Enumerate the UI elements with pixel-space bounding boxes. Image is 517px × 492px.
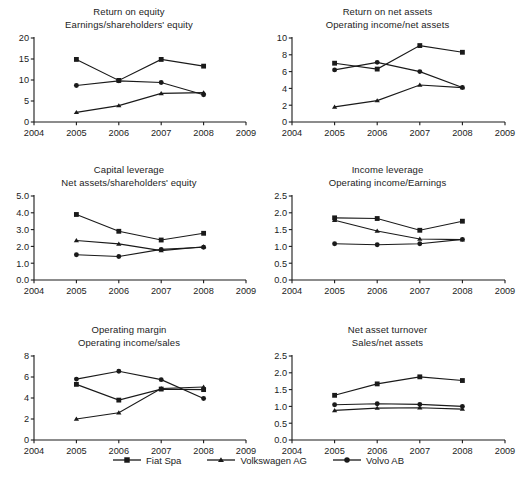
svg-text:1.0: 1.0 <box>274 402 287 412</box>
svg-text:2008: 2008 <box>193 286 213 296</box>
plot-area: 0.01.02.03.04.05.02004200520062007200820… <box>0 188 258 300</box>
svg-text:2004: 2004 <box>24 128 44 138</box>
small-multiples-figure: Return on equityEarnings/shareholders' e… <box>0 0 517 492</box>
legend-item: Fiat Spa <box>113 455 181 466</box>
svg-text:2.5: 2.5 <box>274 351 287 361</box>
svg-text:2008: 2008 <box>193 128 213 138</box>
svg-text:0: 0 <box>24 435 29 445</box>
svg-text:2005: 2005 <box>66 128 86 138</box>
svg-text:2004: 2004 <box>282 286 302 296</box>
svg-text:8: 8 <box>282 50 287 60</box>
svg-text:8: 8 <box>24 351 29 361</box>
plot-area: 02468200420052006200720082009 <box>0 348 258 460</box>
panel-title: Income leverageOperating income/Earnings <box>258 164 517 189</box>
square-marker-icon <box>113 455 141 465</box>
panel-title-line1: Net asset turnover <box>258 324 517 337</box>
chart-panel: Capital leverageNet assets/shareholders'… <box>0 158 258 318</box>
plot-area: 0246810200420052006200720082009 <box>258 30 517 142</box>
svg-text:6: 6 <box>282 67 287 77</box>
svg-text:0.0: 0.0 <box>274 275 287 285</box>
svg-text:10: 10 <box>19 75 29 85</box>
legend-label: Volvo AB <box>366 455 404 466</box>
chart-panel: Return on equityEarnings/shareholders' e… <box>0 0 258 158</box>
svg-text:2.0: 2.0 <box>274 368 287 378</box>
svg-text:0.0: 0.0 <box>274 435 287 445</box>
legend-item: Volvo AB <box>333 455 404 466</box>
svg-text:2005: 2005 <box>324 286 344 296</box>
svg-text:20: 20 <box>19 33 29 43</box>
svg-text:4: 4 <box>282 84 287 94</box>
svg-text:2: 2 <box>24 414 29 424</box>
legend-label: Fiat Spa <box>146 455 181 466</box>
panel-title-line1: Return on net assets <box>258 6 517 19</box>
svg-text:2005: 2005 <box>324 128 344 138</box>
svg-text:2.0: 2.0 <box>274 208 287 218</box>
svg-text:4: 4 <box>24 393 29 403</box>
svg-text:0.0: 0.0 <box>16 275 29 285</box>
svg-text:2008: 2008 <box>452 286 472 296</box>
panel-title: Return on net assetsOperating income/net… <box>258 6 517 31</box>
svg-text:3.0: 3.0 <box>16 225 29 235</box>
svg-text:2: 2 <box>282 101 287 111</box>
panel-title: Operating marginOperating income/sales <box>0 324 258 349</box>
chart-panel: Income leverageOperating income/Earnings… <box>258 158 517 318</box>
figure-legend: Fiat SpaVolkswagen AGVolvo AB <box>0 448 517 472</box>
svg-text:0.5: 0.5 <box>274 419 287 429</box>
svg-text:1.5: 1.5 <box>274 385 287 395</box>
svg-text:0.5: 0.5 <box>274 259 287 269</box>
svg-text:2008: 2008 <box>452 128 472 138</box>
chart-panel: Net asset turnoverSales/net assets0.00.5… <box>258 318 517 446</box>
svg-text:2006: 2006 <box>367 128 387 138</box>
panel-title: Return on equityEarnings/shareholders' e… <box>0 6 258 31</box>
svg-text:5.0: 5.0 <box>16 191 29 201</box>
svg-text:2007: 2007 <box>410 128 430 138</box>
panel-title-line1: Capital leverage <box>0 164 258 177</box>
panel-grid: Return on equityEarnings/shareholders' e… <box>0 0 517 446</box>
svg-text:2009: 2009 <box>236 128 256 138</box>
svg-text:2006: 2006 <box>109 128 129 138</box>
svg-text:1.0: 1.0 <box>274 242 287 252</box>
svg-text:2.5: 2.5 <box>274 191 287 201</box>
panel-title-line1: Return on equity <box>0 6 258 19</box>
svg-text:0: 0 <box>24 117 29 127</box>
svg-text:2007: 2007 <box>410 286 430 296</box>
svg-text:2009: 2009 <box>495 128 515 138</box>
svg-text:1.5: 1.5 <box>274 225 287 235</box>
svg-text:10: 10 <box>277 33 287 43</box>
panel-title-line1: Income leverage <box>258 164 517 177</box>
svg-text:2.0: 2.0 <box>16 242 29 252</box>
triangle-marker-icon <box>207 455 235 465</box>
plot-area: 0.00.51.01.52.02.52004200520062007200820… <box>258 188 517 300</box>
svg-text:2006: 2006 <box>367 286 387 296</box>
svg-text:1.0: 1.0 <box>16 259 29 269</box>
legend-label: Volkswagen AG <box>240 455 307 466</box>
panel-title: Capital leverageNet assets/shareholders'… <box>0 164 258 189</box>
panel-title: Net asset turnoverSales/net assets <box>258 324 517 349</box>
chart-panel: Return on net assetsOperating income/net… <box>258 0 517 158</box>
svg-text:2007: 2007 <box>151 128 171 138</box>
plot-area: 0.00.51.01.52.02.52004200520062007200820… <box>258 348 517 460</box>
chart-panel: Operating marginOperating income/sales02… <box>0 318 258 446</box>
svg-text:2004: 2004 <box>282 128 302 138</box>
svg-text:15: 15 <box>19 54 29 64</box>
svg-text:6: 6 <box>24 372 29 382</box>
svg-text:5: 5 <box>24 96 29 106</box>
svg-text:0: 0 <box>282 117 287 127</box>
legend-item: Volkswagen AG <box>207 455 307 466</box>
circle-marker-icon <box>333 455 361 465</box>
svg-text:2009: 2009 <box>236 286 256 296</box>
plot-area: 05101520200420052006200720082009 <box>0 30 258 142</box>
svg-text:2007: 2007 <box>151 286 171 296</box>
svg-text:4.0: 4.0 <box>16 208 29 218</box>
svg-text:2009: 2009 <box>495 286 515 296</box>
svg-text:2006: 2006 <box>109 286 129 296</box>
panel-title-line1: Operating margin <box>0 324 258 337</box>
svg-text:2005: 2005 <box>66 286 86 296</box>
svg-text:2004: 2004 <box>24 286 44 296</box>
